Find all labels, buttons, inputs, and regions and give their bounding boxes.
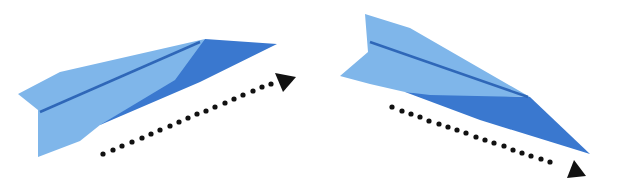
illustration-scene (0, 0, 627, 181)
left-arrow-head-icon (275, 73, 296, 92)
right-arrow-head-icon (567, 160, 586, 178)
left-paper-airplane (18, 39, 277, 157)
paper-airplanes-graphic (0, 0, 627, 181)
right-plane-light-wing (340, 14, 530, 97)
left-plane-light-wing (18, 39, 205, 157)
right-plane-dark-wing (405, 92, 590, 154)
